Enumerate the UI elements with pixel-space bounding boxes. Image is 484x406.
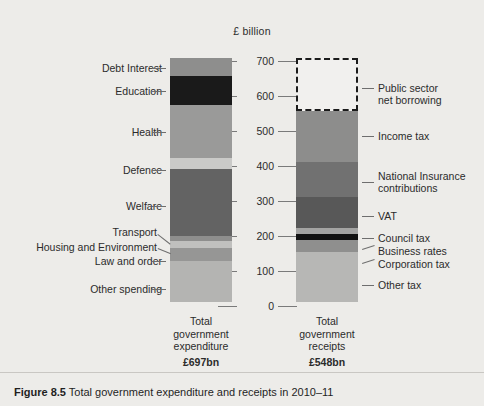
caption-expenditure-line1: Total <box>190 315 212 327</box>
segment-housing-and-environment <box>170 241 232 248</box>
leader-transport <box>157 234 170 245</box>
leader-corporation-tax <box>362 259 375 264</box>
axis-tick-label: 500 <box>240 126 274 137</box>
y-axis-title: £ billion <box>202 25 302 37</box>
figure-caption-text: Total government expenditure and receipt… <box>69 386 334 398</box>
label-national-insurance-line1: National Insurance <box>378 170 466 182</box>
segment-vat <box>296 197 358 228</box>
tick-line-right <box>278 306 297 307</box>
caption-receipts-line1: Total <box>316 315 338 327</box>
axis-tick-label: 600 <box>240 91 274 102</box>
tick-line-right <box>278 131 297 132</box>
segment-corporation-tax <box>296 240 358 252</box>
chart-plot-area: £ billion 700 600 500 400 300 <box>0 0 484 370</box>
leader-health <box>152 132 166 133</box>
axis-tick-label: 0 <box>240 301 274 312</box>
tick-line-right <box>278 61 297 62</box>
tick-line-right <box>278 201 297 202</box>
public-sector-net-borrowing-box <box>296 58 358 111</box>
leader-other-spending <box>152 289 166 290</box>
tick-line-right <box>278 271 297 272</box>
caption-receipts: Total government receipts £548bn <box>267 315 387 368</box>
leader-vat <box>362 216 374 217</box>
label-income-tax: Income tax <box>378 130 429 142</box>
label-national-insurance-line2: contributions <box>378 182 438 194</box>
figure-caption: Figure 8.5 Total government expenditure … <box>14 386 474 398</box>
label-business-rates: Business rates <box>378 245 447 257</box>
segment-health <box>170 105 232 158</box>
leader-debt-interest <box>152 68 166 69</box>
segment-defence <box>170 158 232 169</box>
tick-line-left <box>218 306 237 307</box>
segment-national-insurance-contributions <box>296 162 358 197</box>
label-transport: Transport <box>112 226 157 238</box>
caption-expenditure-line2: government <box>173 328 228 340</box>
segment-education <box>170 76 232 105</box>
caption-receipts-line2: government <box>299 328 354 340</box>
axis-tick-label: 100 <box>240 266 274 277</box>
leader-education <box>152 91 166 92</box>
axis-tick-label: 700 <box>240 56 274 67</box>
leader-income-tax <box>362 136 374 137</box>
leader-other-tax <box>362 285 374 286</box>
leader-public-sector-net-borrowing <box>362 88 374 89</box>
segment-debt-interest <box>170 58 232 76</box>
label-council-tax: Council tax <box>378 232 430 244</box>
total-expenditure-value: £697bn <box>141 356 261 369</box>
figure-number: Figure 8.5 <box>14 386 66 398</box>
leader-housing-and-environment <box>158 248 171 254</box>
segment-income-tax <box>296 110 358 162</box>
axis-tick-label: 400 <box>240 161 274 172</box>
caption-expenditure-line3: expenditure <box>174 340 229 352</box>
leader-national-insurance-contributions <box>362 182 374 183</box>
segment-welfare <box>170 169 232 236</box>
tick-line-right <box>278 236 297 237</box>
segment-other-tax <box>296 252 358 302</box>
label-other-tax: Other tax <box>378 279 421 291</box>
leader-welfare <box>152 206 166 207</box>
segment-other-spending <box>170 261 232 302</box>
tick-line-right <box>278 96 297 97</box>
label-corporation-tax: Corporation tax <box>378 258 450 270</box>
label-public-sector-net-borrowing-line1: Public sector <box>378 82 438 94</box>
caption-divider <box>0 372 484 373</box>
label-vat: VAT <box>378 210 397 222</box>
leader-law-and-order <box>152 261 166 262</box>
leader-business-rates <box>362 245 375 250</box>
figure-root: £ billion 700 600 500 400 300 <box>0 0 484 406</box>
leader-council-tax <box>362 238 374 239</box>
caption-receipts-line3: receipts <box>309 340 346 352</box>
label-public-sector-net-borrowing-line2: net borrowing <box>378 94 442 106</box>
leader-defence <box>152 170 166 171</box>
axis-tick-label: 200 <box>240 231 274 242</box>
tick-line-right <box>278 166 297 167</box>
total-receipts-value: £548bn <box>267 356 387 369</box>
label-housing-and-environment: Housing and Environment <box>36 241 157 253</box>
axis-tick-label: 300 <box>240 196 274 207</box>
segment-law-and-order <box>170 248 232 261</box>
caption-expenditure: Total government expenditure £697bn <box>141 315 261 368</box>
